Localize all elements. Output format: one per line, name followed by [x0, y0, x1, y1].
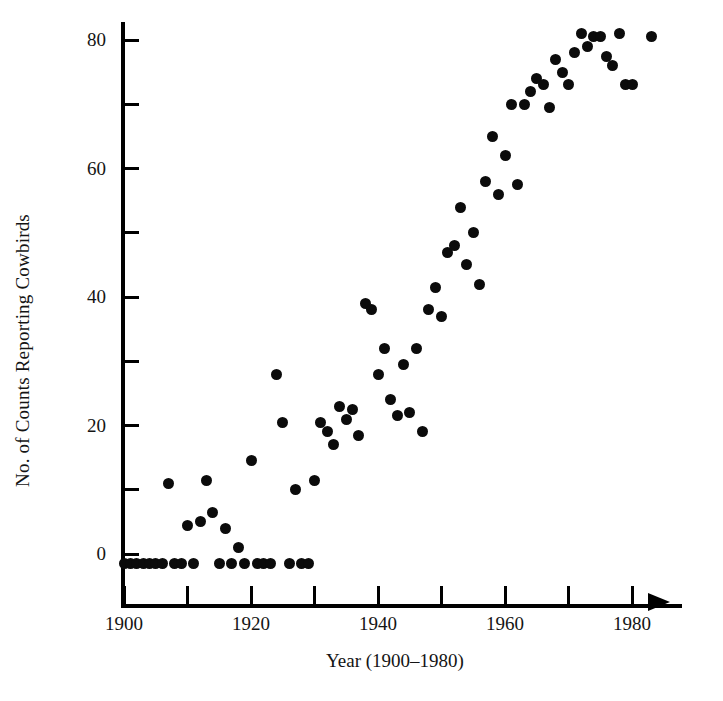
- data-point: [201, 475, 212, 486]
- data-point: [195, 516, 206, 527]
- data-point: [614, 28, 625, 39]
- data-point: [392, 410, 403, 421]
- data-point: [385, 394, 396, 405]
- y-axis-tick: [125, 231, 139, 234]
- y-axis-line: [121, 22, 125, 608]
- data-point: [538, 79, 549, 90]
- data-point: [468, 227, 479, 238]
- x-axis-arrow-icon: [648, 593, 670, 611]
- scatter-chart-figure: No. of Counts Reporting Cowbirds 0204060…: [0, 0, 723, 701]
- data-point: [347, 404, 358, 415]
- y-axis-tick: [125, 103, 139, 106]
- y-axis-tick-label: 60: [48, 159, 106, 178]
- data-point: [461, 259, 472, 270]
- data-point: [398, 359, 409, 370]
- data-point: [595, 31, 606, 42]
- data-point: [188, 558, 199, 569]
- data-point: [284, 558, 295, 569]
- plot-area: 020406080 19001920194019601980: [0, 0, 723, 701]
- y-axis-tick: [125, 39, 139, 42]
- data-point: [303, 558, 314, 569]
- data-point: [233, 542, 244, 553]
- x-axis-tick: [504, 586, 507, 604]
- y-axis-tick: [125, 296, 139, 299]
- y-axis-tick: [125, 424, 139, 427]
- data-point: [328, 439, 339, 450]
- x-axis-tick: [250, 586, 253, 604]
- data-point: [176, 558, 187, 569]
- data-point: [373, 369, 384, 380]
- data-point: [487, 131, 498, 142]
- data-point: [214, 558, 225, 569]
- data-point: [455, 202, 466, 213]
- data-point: [246, 455, 257, 466]
- data-point: [500, 150, 511, 161]
- data-point: [334, 401, 345, 412]
- data-point: [366, 304, 377, 315]
- data-point: [550, 54, 561, 65]
- data-point: [271, 369, 282, 380]
- data-point: [220, 523, 231, 534]
- data-point: [563, 79, 574, 90]
- y-axis-tick: [125, 488, 139, 491]
- data-point: [341, 414, 352, 425]
- data-point: [582, 41, 593, 52]
- y-axis-tick-label: 0: [48, 544, 106, 563]
- data-point: [449, 240, 460, 251]
- data-point: [512, 179, 523, 190]
- x-axis-tick: [123, 586, 126, 604]
- data-point: [309, 475, 320, 486]
- x-axis-tick-label: 1980: [592, 614, 672, 633]
- data-point: [353, 430, 364, 441]
- x-axis-tick: [186, 586, 189, 604]
- y-axis-tick-label: 20: [48, 416, 106, 435]
- data-point: [157, 558, 168, 569]
- data-point: [627, 79, 638, 90]
- data-point: [239, 558, 250, 569]
- x-axis-tick: [440, 586, 443, 604]
- data-point: [379, 343, 390, 354]
- data-point: [322, 426, 333, 437]
- x-axis-tick-label: 1920: [211, 614, 291, 633]
- data-point: [226, 558, 237, 569]
- data-point: [182, 520, 193, 531]
- x-axis-line: [121, 604, 682, 608]
- data-point: [607, 60, 618, 71]
- x-axis-tick: [313, 586, 316, 604]
- x-axis-tick-label: 1960: [465, 614, 545, 633]
- data-point: [290, 484, 301, 495]
- x-axis-tick: [567, 586, 570, 604]
- data-point: [557, 67, 568, 78]
- x-axis-tick: [377, 586, 380, 604]
- data-point: [265, 558, 276, 569]
- data-point: [493, 189, 504, 200]
- x-axis-label: Year (1900–1980): [110, 650, 680, 672]
- y-axis-tick: [125, 360, 139, 363]
- y-axis-tick: [125, 553, 139, 556]
- data-point: [525, 86, 536, 97]
- data-point: [474, 279, 485, 290]
- data-point: [480, 176, 491, 187]
- data-point: [436, 311, 447, 322]
- data-point: [207, 507, 218, 518]
- y-axis-tick-label: 40: [48, 287, 106, 306]
- x-axis-tick-label: 1900: [84, 614, 164, 633]
- data-point: [163, 478, 174, 489]
- x-axis-tick: [631, 586, 634, 604]
- data-point: [411, 343, 422, 354]
- data-point: [576, 28, 587, 39]
- data-point: [404, 407, 415, 418]
- y-axis-tick: [125, 167, 139, 170]
- data-point: [544, 102, 555, 113]
- data-point: [519, 99, 530, 110]
- data-point: [430, 282, 441, 293]
- data-point: [506, 99, 517, 110]
- data-point: [569, 47, 580, 58]
- data-point: [417, 426, 428, 437]
- x-axis-tick-label: 1940: [338, 614, 418, 633]
- data-point: [646, 31, 657, 42]
- y-axis-tick-label: 80: [48, 30, 106, 49]
- data-point: [423, 304, 434, 315]
- data-point: [277, 417, 288, 428]
